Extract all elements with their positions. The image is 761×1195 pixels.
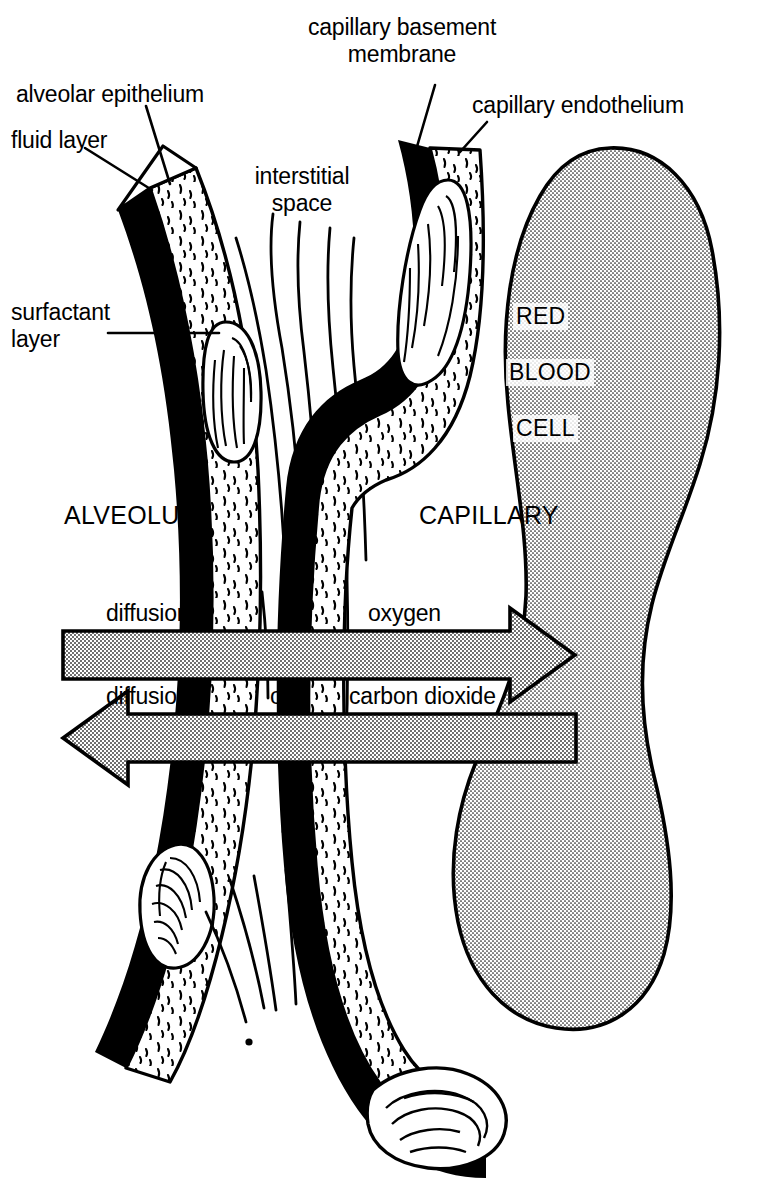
label-diffusion-oxygen-word-1: diffusion (106, 600, 189, 627)
label-diffusion-oxygen-word-2: of (288, 600, 307, 627)
label-red: RED (513, 303, 568, 330)
label-cell: CELL (513, 415, 578, 442)
label-diffusion-co2-word-1: diffusion (106, 683, 189, 710)
label-fluid-layer: fluid layer (11, 127, 107, 154)
label-alveolar-epithelium: alveolar epithelium (16, 81, 204, 108)
diagram-canvas: capillary basement membrane capillary en… (0, 0, 761, 1195)
leader-fluid-layer (85, 148, 152, 190)
label-alveolus: ALVEOLUS (64, 501, 197, 531)
respiratory-membrane-illustration (0, 0, 761, 1195)
alveolar-epithelial-nucleus-upper (203, 322, 261, 462)
label-blood: BLOOD (506, 359, 594, 386)
label-diffusion-oxygen-word-3: oxygen (368, 600, 441, 627)
red-blood-cell (453, 148, 719, 1029)
alveolar-epithelial-nucleus-lower (140, 844, 214, 968)
label-interstitial-space: interstitial space (236, 163, 368, 217)
interstitial-dot-lower (245, 1038, 252, 1045)
label-diffusion-co2-word-3: carbon dioxide (349, 683, 496, 710)
leader-capillary-endothelium (460, 122, 487, 152)
endothelial-cell-bottom (367, 1068, 506, 1169)
label-capillary-basement-membrane: capillary basement membrane (282, 14, 522, 68)
label-surfactant-layer: surfactant layer (11, 299, 131, 353)
label-diffusion-co2-word-2: of (270, 683, 289, 710)
label-capillary-endothelium: capillary endothelium (472, 92, 684, 119)
label-capillary: CAPILLARY (419, 501, 559, 531)
leader-capillary-basement-membrane (416, 85, 435, 150)
